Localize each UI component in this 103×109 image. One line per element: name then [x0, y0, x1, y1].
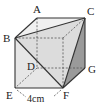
label-a: A — [33, 3, 41, 15]
dim-leader-left — [17, 90, 26, 97]
label-d: D — [27, 60, 35, 72]
dim-leader-right — [53, 90, 61, 97]
cube-svg: A C B D G E F 4cm — [0, 0, 103, 109]
label-c: C — [87, 5, 94, 17]
label-g: G — [88, 63, 96, 75]
label-e: E — [6, 89, 13, 101]
label-b: B — [3, 32, 10, 44]
dimension-label: 4cm — [27, 93, 44, 104]
cube-diagram: A C B D G E F 4cm — [0, 0, 103, 109]
label-f: F — [63, 89, 69, 101]
